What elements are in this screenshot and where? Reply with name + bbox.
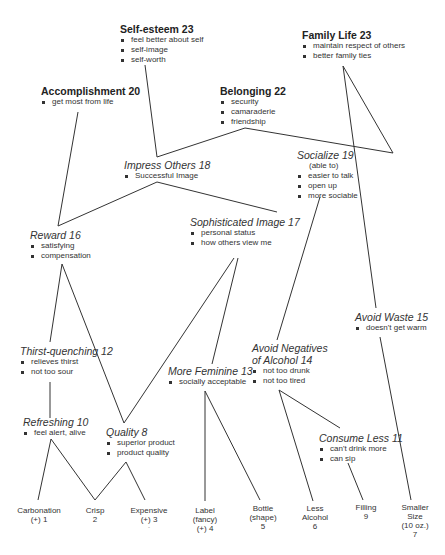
attribute-label: Size <box>397 512 433 521</box>
bullet: personal status <box>190 228 300 238</box>
bullet: socially acceptable <box>168 377 253 387</box>
node-title: Self-esteem 23 <box>120 23 204 35</box>
attribute-carbonation: Carbonation (+) 1 <box>14 506 64 524</box>
attribute-code: 9 <box>350 512 382 521</box>
bullet: better family ties <box>302 51 405 61</box>
node-title: Quality 8 <box>106 426 175 438</box>
attribute-filling: Filling 9 <box>350 503 382 521</box>
node-title: Sophisticated Image 17 <box>190 216 300 228</box>
node-title: Avoid Negatives <box>252 342 328 354</box>
bullet: self-image <box>120 45 204 55</box>
node-impress-others: Impress Others 18 Successful Image <box>124 159 210 181</box>
node-quality: Quality 8 superior product product quali… <box>106 426 175 458</box>
bullet: maintain respect of others <box>302 41 405 51</box>
bullet: product quality <box>106 448 175 458</box>
attribute-label-fancy: Label (fancy) (+) 4 <box>188 506 222 533</box>
bullet: Successful Image <box>124 171 210 181</box>
attribute-crisp: Crisp 2 <box>78 506 112 524</box>
attribute-smaller-size: Smaller Size (10 oz.) 7 <box>397 503 433 539</box>
node-sophisticated-image: Sophisticated Image 17 personal status h… <box>190 216 300 248</box>
connector-lines <box>0 0 445 555</box>
attribute-expensive: Expensive (+) 3 - <box>127 506 171 530</box>
node-more-feminine: More Feminine 13 socially acceptable <box>168 365 253 387</box>
attribute-less-alcohol: Less Alcohol 6 <box>298 504 332 531</box>
node-thirst-quenching: Thirst-quenching 12 relieves thirst not … <box>20 345 113 377</box>
node-title: Impress Others 18 <box>124 159 210 171</box>
attribute-code: (+) 4 <box>188 524 222 533</box>
bullet: feel alert, alive <box>23 428 88 438</box>
node-avoid-negatives-of-alcohol: Avoid Negatives of Alcohol 14 not too dr… <box>252 342 328 386</box>
attribute-code: (+) 1 <box>14 515 64 524</box>
attribute-label: Expensive <box>127 506 171 515</box>
attribute-label: Filling <box>350 503 382 512</box>
node-title: More Feminine 13 <box>168 365 253 377</box>
node-title: Avoid Waste 15 <box>355 311 428 323</box>
bullet: satisfying <box>30 241 91 251</box>
attribute-bottle-shape: Bottle (shape) 5 <box>244 504 282 531</box>
node-title: Consume Less 11 <box>319 432 403 444</box>
node-self-esteem: Self-esteem 23 feel better about self se… <box>120 23 204 66</box>
node-title: of Alcohol 14 <box>252 354 328 366</box>
node-reward: Reward 16 satisfying compensation <box>30 229 91 261</box>
attribute-label: (fancy) <box>188 515 222 524</box>
bullet: security <box>220 97 286 107</box>
attribute-label: (shape) <box>244 513 282 522</box>
node-belonging: Belonging 22 security camaraderie friend… <box>220 85 286 128</box>
attribute-label: Smaller <box>397 503 433 512</box>
bullet: self-worth <box>120 55 204 65</box>
bullet: doesn't get warm <box>355 323 428 333</box>
bullet: easier to talk <box>297 171 358 181</box>
node-refreshing: Refreshing 10 feel alert, alive <box>23 416 88 438</box>
bullet: more sociable <box>297 191 358 201</box>
node-socialize: Socialize 19 (able to) easier to talk op… <box>297 149 358 202</box>
attribute-mark: - <box>127 524 171 530</box>
attribute-code: (+) 3 <box>127 515 171 524</box>
node-consume-less: Consume Less 11 can't drink more can sip <box>319 432 403 464</box>
bullet: friendship <box>220 117 286 127</box>
node-subtitle: (able to) <box>297 161 358 171</box>
bullet: not too tired <box>252 376 328 386</box>
bullet: can't drink more <box>319 444 403 454</box>
bullet: relieves thirst <box>20 357 113 367</box>
attribute-label: Alcohol <box>298 513 332 522</box>
node-title: Socialize 19 <box>297 149 358 161</box>
node-title: Family Life 23 <box>302 29 405 41</box>
attribute-label: Bottle <box>244 504 282 513</box>
bullet: camaraderie <box>220 107 286 117</box>
attribute-label: Carbonation <box>14 506 64 515</box>
attribute-code: 6 <box>298 522 332 531</box>
attribute-label: Label <box>188 506 222 515</box>
attribute-label: (10 oz.) <box>397 521 433 530</box>
bullet: compensation <box>30 251 91 261</box>
bullet: feel better about self <box>120 35 204 45</box>
attribute-label: Crisp <box>78 506 112 515</box>
bullet: can sip <box>319 454 403 464</box>
node-accomplishment: Accomplishment 20 get most from life <box>41 85 140 107</box>
attribute-label: Less <box>298 504 332 513</box>
attribute-code: 7 <box>397 530 433 539</box>
attribute-code: 2 <box>78 515 112 524</box>
node-avoid-waste: Avoid Waste 15 doesn't get warm <box>355 311 428 333</box>
node-title: Reward 16 <box>30 229 91 241</box>
bullet: get most from life <box>41 97 140 107</box>
bullet: how others view me <box>190 238 300 248</box>
bullet: superior product <box>106 438 175 448</box>
node-family-life: Family Life 23 maintain respect of other… <box>302 29 405 61</box>
node-title: Belonging 22 <box>220 85 286 97</box>
bullet: not too sour <box>20 367 113 377</box>
node-title: Thirst-quenching 12 <box>20 345 113 357</box>
bullet: not too drunk <box>252 366 328 376</box>
bullet: open up <box>297 181 358 191</box>
attribute-code: 5 <box>244 522 282 531</box>
node-title: Refreshing 10 <box>23 416 88 428</box>
node-title: Accomplishment 20 <box>41 85 140 97</box>
